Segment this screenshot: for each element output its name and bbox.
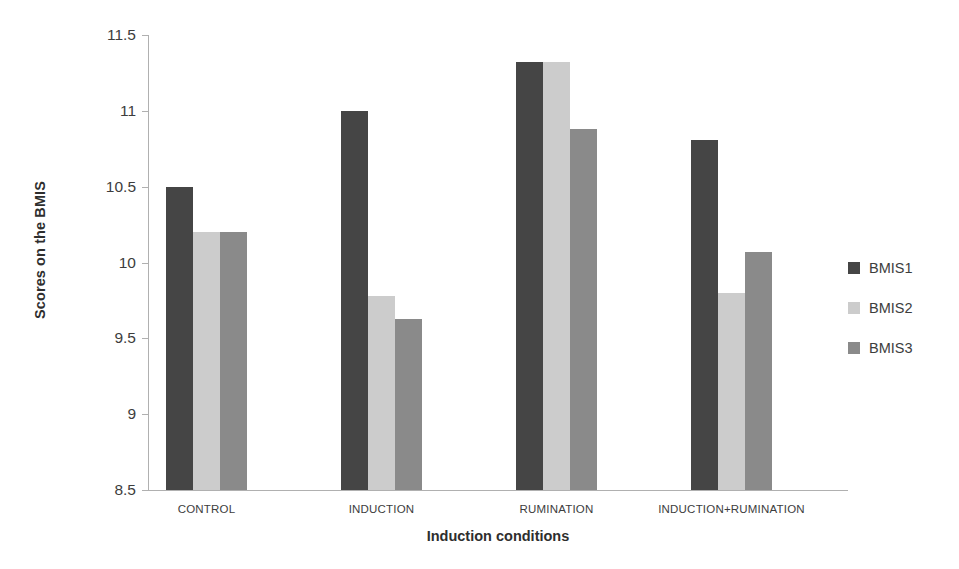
y-tick-mark — [142, 414, 148, 415]
x-category-label: INDUCTION+RUMINATION — [658, 503, 805, 515]
x-category-label: RUMINATION — [520, 503, 594, 515]
bar — [368, 296, 395, 490]
bar — [516, 62, 543, 490]
legend-item-label: BMIS2 — [869, 300, 913, 316]
x-category-label: INDUCTION — [349, 503, 415, 515]
legend-item[interactable]: BMIS3 — [848, 328, 913, 368]
legend-swatch-icon — [848, 302, 860, 314]
bar — [220, 232, 247, 490]
x-axis-line — [148, 490, 848, 491]
y-tick-label: 11.5 — [107, 26, 136, 44]
bar — [718, 293, 745, 490]
bar — [341, 111, 368, 490]
bar — [745, 252, 772, 490]
y-tick-label: 8.5 — [114, 481, 136, 499]
y-axis-title: Scores on the BMIS — [0, 0, 80, 500]
y-tick-mark — [142, 490, 148, 491]
y-tick-label: 10.5 — [106, 178, 136, 196]
y-axis-title-text: Scores on the BMIS — [32, 181, 48, 319]
bar — [395, 319, 422, 490]
legend-item-label: BMIS1 — [869, 260, 913, 276]
y-tick-label: 11 — [120, 102, 136, 120]
bar — [166, 187, 193, 490]
y-axis-line — [148, 35, 149, 490]
bar-chart: Scores on the BMIS 8.599.51010.51111.5 C… — [0, 0, 959, 569]
x-axis-title: Induction conditions — [148, 528, 848, 544]
legend-swatch-icon — [848, 262, 860, 274]
y-tick-label: 9.5 — [114, 329, 136, 347]
legend-item-label: BMIS3 — [869, 340, 913, 356]
bar — [543, 62, 570, 490]
plot-area: 8.599.51010.51111.5 CONTROLINDUCTIONRUMI… — [148, 35, 848, 490]
legend-item[interactable]: BMIS1 — [848, 248, 913, 288]
y-tick-label: 9 — [127, 405, 136, 423]
legend: BMIS1BMIS2BMIS3 — [848, 248, 913, 368]
y-tick-label: 10 — [119, 254, 136, 272]
y-tick-mark — [142, 187, 148, 188]
legend-item[interactable]: BMIS2 — [848, 288, 913, 328]
x-category-label: CONTROL — [178, 503, 236, 515]
bar — [570, 129, 597, 490]
y-tick-mark — [142, 35, 148, 36]
y-tick-mark — [142, 263, 148, 264]
legend-swatch-icon — [848, 342, 860, 354]
y-tick-mark — [142, 111, 148, 112]
bar — [193, 232, 220, 490]
y-tick-mark — [142, 338, 148, 339]
bar — [691, 140, 718, 490]
